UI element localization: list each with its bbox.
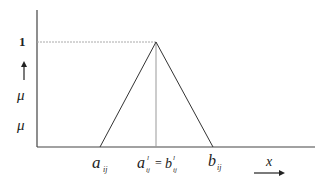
- svg-text:a: a: [92, 153, 101, 172]
- svg-text:b: b: [165, 156, 172, 171]
- mu-label-upper: μ: [16, 87, 25, 103]
- right-arrow-icon: [254, 170, 285, 176]
- mu-label-lower: μ: [16, 117, 25, 133]
- svg-text:=: =: [155, 156, 162, 170]
- svg-text:l: l: [147, 154, 149, 162]
- label-b-ij: b ij: [208, 152, 222, 172]
- membership-diagram: 1 μ μ a ij a l ij = b l ij b ij x: [0, 0, 328, 189]
- svg-text:ij: ij: [173, 166, 177, 174]
- y-tick-one: 1: [19, 34, 26, 49]
- label-peak-a-equals-b: a l ij = b l ij: [137, 154, 177, 174]
- svg-text:ij: ij: [217, 163, 222, 172]
- up-arrow-icon: [21, 61, 27, 80]
- svg-text:a: a: [137, 154, 145, 171]
- label-a-ij: a ij: [92, 153, 108, 174]
- x-label: x: [265, 154, 273, 169]
- svg-text:l: l: [173, 154, 175, 162]
- svg-text:ij: ij: [146, 166, 150, 174]
- svg-text:b: b: [208, 152, 216, 169]
- svg-text:ij: ij: [103, 165, 108, 174]
